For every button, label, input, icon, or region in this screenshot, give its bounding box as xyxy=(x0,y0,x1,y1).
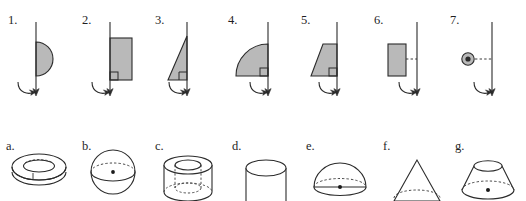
frustum-top-ellipse xyxy=(474,161,502,171)
cross-section-2-drawing xyxy=(82,14,148,100)
solid-a-drawing xyxy=(6,140,72,201)
cross-section-7-label: 7. xyxy=(450,14,459,27)
solid-e-drawing xyxy=(306,140,376,201)
solids-of-revolution-figure: 1. 2. 3. xyxy=(0,0,526,201)
solid-g-drawing xyxy=(455,140,523,201)
trapezoid-shape xyxy=(311,44,337,76)
solid-a: a. xyxy=(6,140,72,201)
cross-section-3-label: 3. xyxy=(155,14,164,27)
solid-f: f. xyxy=(383,140,453,201)
hollow-cylinder-top-inner xyxy=(175,160,201,170)
solid-d-drawing xyxy=(232,140,302,201)
cross-section-1-label: 1. xyxy=(8,14,17,27)
cross-section-7: 7. xyxy=(450,14,520,100)
quarter-circle-shape xyxy=(236,44,268,76)
cross-section-4: 4. xyxy=(228,14,294,100)
solid-e: e. xyxy=(306,140,376,201)
cross-section-4-drawing xyxy=(228,14,294,100)
cross-section-1-drawing xyxy=(8,14,74,100)
solid-f-drawing xyxy=(383,140,453,201)
solid-g-label: g. xyxy=(455,140,464,153)
disc-centre-dot xyxy=(465,56,470,61)
cross-section-7-drawing xyxy=(450,14,520,100)
rectangle-shape xyxy=(388,44,406,76)
solid-d-label: d. xyxy=(232,140,241,153)
cross-section-5-label: 5. xyxy=(301,14,310,27)
hemisphere-centre-dot xyxy=(338,185,342,189)
solid-c: c. xyxy=(155,140,225,201)
solid-b-label: b. xyxy=(82,140,91,153)
cross-section-4-label: 4. xyxy=(228,14,237,27)
hemisphere-dome xyxy=(314,163,366,187)
solid-b: b. xyxy=(82,140,148,201)
cross-section-1: 1. xyxy=(8,14,74,100)
solid-d: d. xyxy=(232,140,302,201)
solid-b-drawing xyxy=(82,140,148,201)
cross-section-3: 3. xyxy=(155,14,221,100)
solid-c-label: c. xyxy=(155,140,164,153)
solid-f-label: f. xyxy=(383,140,390,153)
cross-section-6-drawing xyxy=(374,14,444,100)
rectangle-shape xyxy=(110,38,132,80)
solid-c-drawing xyxy=(155,140,225,201)
solid-a-label: a. xyxy=(6,140,15,153)
semicircle-shape xyxy=(36,42,53,76)
cone-body xyxy=(394,160,440,201)
faint-header-text xyxy=(4,0,204,9)
solid-e-label: e. xyxy=(306,140,315,153)
cylinder-top-ellipse xyxy=(246,160,286,176)
triangle-shape xyxy=(168,36,187,80)
cross-section-5-drawing xyxy=(301,14,367,100)
cross-section-6-label: 6. xyxy=(374,14,383,27)
cross-section-2-label: 2. xyxy=(82,14,91,27)
frustum-centre-dot xyxy=(486,188,490,192)
solid-g: g. xyxy=(455,140,523,201)
cross-section-3-drawing xyxy=(155,14,221,100)
cross-section-2: 2. xyxy=(82,14,148,100)
cross-section-5: 5. xyxy=(301,14,367,100)
cross-section-6: 6. xyxy=(374,14,444,100)
torus-inner-ellipse xyxy=(24,160,55,172)
sphere-centre-dot xyxy=(111,170,115,174)
